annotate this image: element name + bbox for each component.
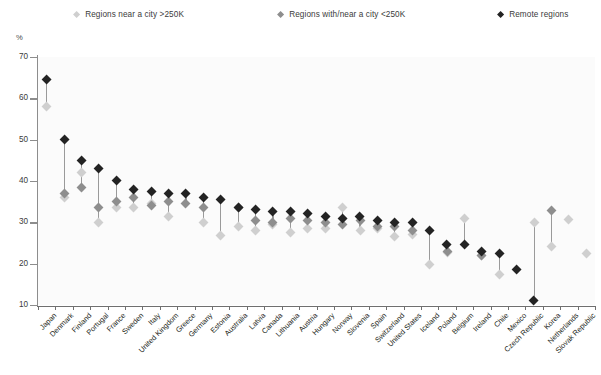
- legend-label-near: Regions near a city >250K: [85, 10, 184, 19]
- plot-area: [38, 57, 595, 305]
- y-axis-tick-label: 40: [0, 176, 28, 185]
- y-axis-tick-label: 50: [0, 135, 28, 144]
- legend-item-near[interactable]: Regions near a city >250K: [74, 10, 184, 19]
- x-axis-tick: [473, 306, 474, 310]
- y-axis-tick-label: 70: [0, 52, 28, 61]
- x-axis-tick: [543, 306, 544, 310]
- y-axis-tick-label: 30: [0, 217, 28, 226]
- x-axis-tick: [369, 306, 370, 310]
- y-axis-tick: [30, 264, 37, 265]
- y-axis-tick-label: 10: [0, 300, 28, 309]
- legend-item-remote[interactable]: Remote regions: [498, 10, 568, 19]
- y-axis-tick: [30, 181, 37, 182]
- x-axis-tick: [351, 306, 352, 310]
- x-axis-tick: [386, 306, 387, 310]
- x-axis-tick: [456, 306, 457, 310]
- y-axis-unit: %: [16, 33, 23, 42]
- x-axis-tick: [55, 306, 56, 310]
- legend-marker-near-icon: [73, 11, 80, 18]
- x-axis-tick: [560, 306, 561, 310]
- legend-item-mid[interactable]: Regions with/near a city <250K: [278, 10, 405, 19]
- legend-label-mid: Regions with/near a city <250K: [289, 10, 405, 19]
- x-axis-tick: [90, 306, 91, 310]
- x-axis-tick: [177, 306, 178, 310]
- legend-marker-mid-icon: [277, 11, 284, 18]
- y-axis-tick: [30, 222, 37, 223]
- x-axis-tick: [125, 306, 126, 310]
- legend-label-remote: Remote regions: [509, 10, 568, 19]
- chart-legend: Regions near a city >250K Regions with/n…: [0, 8, 601, 30]
- chart-page: Regions near a city >250K Regions with/n…: [0, 0, 601, 375]
- x-axis-tick: [525, 306, 526, 310]
- y-axis-tick: [30, 140, 37, 141]
- x-axis-tick: [595, 306, 596, 310]
- legend-marker-remote-icon: [497, 11, 504, 18]
- x-axis-tick: [421, 306, 422, 310]
- x-axis-tick: [508, 306, 509, 310]
- x-axis-tick: [299, 306, 300, 310]
- x-axis-tick: [404, 306, 405, 310]
- x-axis-tick: [212, 306, 213, 310]
- y-axis-tick: [30, 305, 37, 306]
- x-axis-tick: [282, 306, 283, 310]
- y-axis-tick: [30, 57, 37, 58]
- range-connector: [98, 169, 99, 223]
- x-axis-tick: [142, 306, 143, 310]
- x-axis-tick: [578, 306, 579, 310]
- x-axis-tick: [38, 306, 39, 310]
- x-axis-tick: [247, 306, 248, 310]
- range-connector: [534, 222, 535, 301]
- y-axis-tick-label: 60: [0, 93, 28, 102]
- x-axis-tick: [264, 306, 265, 310]
- x-axis-tick: [229, 306, 230, 310]
- x-axis-tick: [195, 306, 196, 310]
- y-axis-tick: [30, 98, 37, 99]
- x-axis-tick: [491, 306, 492, 310]
- x-axis-tick: [438, 306, 439, 310]
- x-axis-tick: [160, 306, 161, 310]
- x-axis-tick: [317, 306, 318, 310]
- x-axis-tick: [73, 306, 74, 310]
- x-axis-tick: [108, 306, 109, 310]
- x-axis-tick: [334, 306, 335, 310]
- y-axis-tick-label: 20: [0, 259, 28, 268]
